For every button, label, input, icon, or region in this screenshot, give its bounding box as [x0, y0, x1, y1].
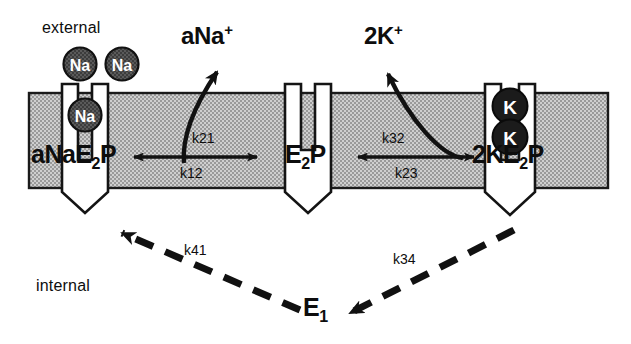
na-k-pump-diagram: Na Na Na K K ext — [0, 0, 631, 344]
rate-label-k41: k41 — [184, 243, 207, 257]
released-potassium-text: 2K — [364, 22, 394, 49]
rate-label-k12: k12 — [180, 166, 203, 180]
state-1-enzyme: E — [75, 140, 91, 168]
arrow-k34 — [350, 230, 514, 313]
state-3-tail: P — [528, 140, 544, 168]
ion-na-channel-1: Na — [69, 99, 102, 132]
ion-na-text: Na — [112, 57, 133, 74]
released-sodium-text: aNa — [181, 22, 224, 49]
state-1-main: aNa — [31, 140, 75, 168]
state-label-3: 2KE2P — [472, 142, 544, 172]
state-4-enzyme: E — [303, 293, 319, 321]
state-1-sub: 2 — [92, 155, 100, 172]
ion-na-external-2: Na — [106, 48, 139, 81]
state-3-main: 2K — [472, 140, 503, 168]
state-label-4: E1 — [303, 295, 328, 325]
ion-k-channel-1: K — [493, 89, 528, 124]
ion-na-text: Na — [70, 57, 91, 74]
released-sodium-label: aNa+ — [181, 22, 233, 48]
released-potassium-charge: + — [394, 21, 402, 38]
state-3-sub: 2 — [519, 155, 527, 172]
state-4-sub: 1 — [319, 308, 327, 325]
state-label-2: E2P — [285, 142, 326, 172]
internal-label: internal — [36, 278, 90, 294]
released-potassium-label: 2K+ — [364, 22, 403, 48]
rate-label-k32: k32 — [382, 131, 405, 145]
ion-k-text: K — [503, 97, 517, 118]
state-2-tail: P — [310, 140, 326, 168]
state-1-tail: P — [100, 140, 116, 168]
arrow-k41 — [122, 233, 300, 310]
state-label-1: aNaE2P — [31, 142, 116, 172]
ion-na-text: Na — [75, 108, 96, 125]
state-3-enzyme: E — [503, 140, 519, 168]
released-sodium-charge: + — [224, 21, 232, 38]
state-2-sub: 2 — [301, 155, 309, 172]
ion-na-external-1: Na — [64, 48, 97, 81]
rate-label-k23: k23 — [395, 166, 418, 180]
rate-label-k21: k21 — [192, 131, 215, 145]
external-label: external — [42, 20, 101, 36]
rate-label-k34: k34 — [393, 252, 416, 266]
state-2-enzyme: E — [285, 140, 301, 168]
